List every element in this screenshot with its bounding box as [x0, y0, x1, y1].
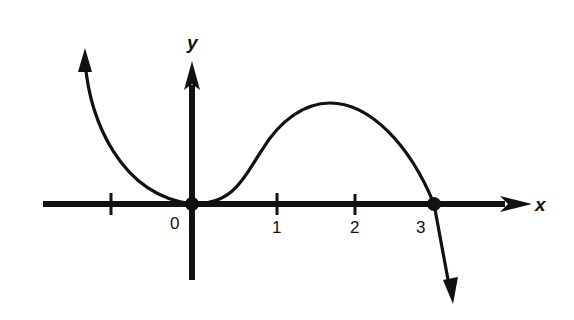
curve-left-arrow-icon: [78, 48, 92, 72]
tick-label-0: 0: [170, 214, 179, 233]
y-axis: [184, 61, 200, 280]
x-axis: [43, 196, 532, 212]
x-axis-label: x: [534, 194, 547, 215]
curve-right-arrow-icon: [443, 277, 458, 304]
tick-label-2: 2: [350, 218, 359, 237]
root-point-3: [427, 197, 441, 211]
tick-label-3: 3: [416, 218, 425, 237]
graph-canvas: 0 1 2 3 x y: [0, 0, 574, 320]
function-curve: [85, 62, 449, 285]
origin-point: [185, 197, 199, 211]
tick-label-1: 1: [272, 218, 281, 237]
y-axis-label: y: [186, 32, 199, 53]
